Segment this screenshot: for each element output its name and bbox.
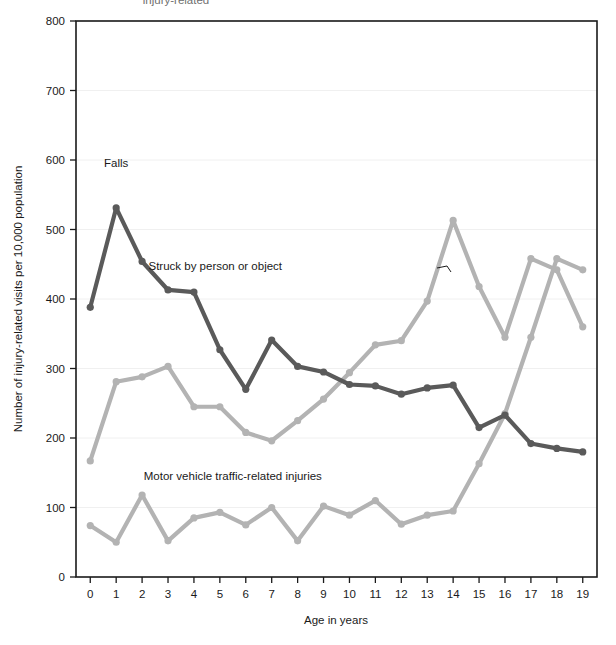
y-tick-label: 600 [46,154,65,166]
y-tick-label: 500 [46,224,65,236]
y-tick-label: 400 [46,293,65,305]
data-point [113,204,120,211]
series-line [90,220,582,460]
x-tick-label: 12 [395,588,408,600]
data-point [372,497,379,504]
data-point [553,255,560,262]
data-point [190,403,197,410]
data-point [87,522,94,529]
data-point [475,460,482,467]
y-axis: 0100200300400500600700800 [46,15,76,583]
data-point [216,346,223,353]
data-point [113,378,120,385]
x-tick-label: 3 [165,588,171,600]
clipped-top-text: injury-related [143,0,209,6]
data-point [87,304,94,311]
series-falls [87,204,587,455]
data-point [450,217,457,224]
x-tick-label: 5 [217,588,223,600]
data-point [527,255,534,262]
data-point [346,512,353,519]
data-point [579,448,586,455]
data-point [242,386,249,393]
data-point [527,334,534,341]
series-struck-by-person-or-object [87,217,587,465]
x-tick-label: 9 [320,588,326,600]
data-point [268,437,275,444]
x-tick-label: 13 [421,588,434,600]
data-point [475,424,482,431]
data-point [346,369,353,376]
data-point [372,341,379,348]
data-point [527,440,534,447]
data-point [450,507,457,514]
data-point [475,283,482,290]
data-point [320,368,327,375]
x-tick-label: 0 [87,588,93,600]
x-tick-label: 2 [139,588,145,600]
series-annotation-label: Motor vehicle traffic-related injuries [144,470,322,482]
data-point [372,382,379,389]
data-point [242,429,249,436]
data-point [164,286,171,293]
line-chart-svg: injury-related 0100200300400500600700800… [0,0,616,645]
data-point [346,381,353,388]
data-point [164,363,171,370]
y-tick-label: 100 [46,502,65,514]
series-annotations: FallsStruck by person or objectMotor veh… [104,157,451,482]
y-tick-label: 800 [46,15,65,27]
clipped-top-text-label: injury-related [143,0,209,6]
x-tick-label: 16 [499,588,512,600]
x-tick-label: 19 [576,588,589,600]
series-annotation-label: Struck by person or object [148,260,282,272]
data-point [501,334,508,341]
x-tick-label: 11 [369,588,381,600]
x-tick-label: 6 [243,588,249,600]
y-tick-label: 300 [46,363,65,375]
data-point [138,258,145,265]
data-point [398,337,405,344]
x-tick-label: 15 [473,588,486,600]
data-point [579,323,586,330]
y-tick-label: 200 [46,432,65,444]
x-tick-label: 18 [550,588,563,600]
data-series-layer [87,204,587,545]
x-tick-label: 4 [191,588,198,600]
data-point [424,297,431,304]
data-point [294,363,301,370]
x-tick-label: 10 [343,588,356,600]
data-point [294,537,301,544]
data-point [190,288,197,295]
data-point [242,521,249,528]
data-point [450,382,457,389]
data-point [268,336,275,343]
data-point [579,266,586,273]
chart-figure: injury-related 0100200300400500600700800… [0,0,616,645]
y-axis-title: Number of injury-related visits per 10,0… [12,166,24,433]
y-tick-label: 0 [59,571,65,583]
data-point [216,509,223,516]
x-tick-label: 8 [294,588,300,600]
x-tick-label: 17 [525,588,538,600]
data-point [138,373,145,380]
data-point [320,395,327,402]
data-point [294,417,301,424]
data-point [501,411,508,418]
data-point [553,445,560,452]
data-point [398,521,405,528]
data-point [113,539,120,546]
x-tick-label: 1 [113,588,119,600]
series-annotation-label: Falls [104,157,129,169]
data-point [398,391,405,398]
data-point [138,491,145,498]
data-point [424,512,431,519]
x-axis: 012345678910111213141516171819 [87,577,589,600]
series-line [90,259,582,543]
data-point [190,514,197,521]
data-point [164,537,171,544]
data-point [320,503,327,510]
data-point [216,403,223,410]
x-tick-label: 14 [447,588,460,600]
x-axis-title: Age in years [304,614,368,626]
y-tick-label: 700 [46,85,65,97]
